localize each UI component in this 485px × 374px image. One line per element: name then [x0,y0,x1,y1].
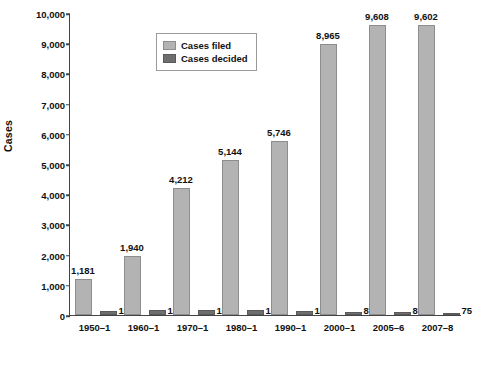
x-tick-label: 1980–1 [226,322,258,333]
bar-cases-filed [222,160,239,315]
bar-value-label-cases-filed: 5,144 [206,146,254,157]
y-tick-label: 5,000 [41,160,65,171]
y-tick-label: 8,000 [41,69,65,80]
bar-value-label-cases-filed: 9,602 [402,11,450,22]
y-tick-label: 4,000 [41,190,65,201]
y-tick-label: 10,000 [36,9,65,20]
bar-cases-filed [75,279,92,315]
bar-cases-decided [198,310,215,315]
x-tick-label: 2000–1 [324,322,356,333]
bar-value-label-cases-filed: 1,940 [108,242,156,253]
bar-cases-decided [100,311,117,315]
bar-cases-filed [320,44,337,315]
legend-item-cases-decided: Cases decided [163,52,248,65]
x-tick-label: 1960–1 [128,322,160,333]
legend-swatch-cases-decided [163,54,176,63]
x-tick-label: 2005–6 [373,322,405,333]
legend-item-cases-filed: Cases filed [163,39,248,52]
bar-value-label-cases-decided: 75 [462,305,485,316]
y-tick-label: 7,000 [41,99,65,110]
bar-cases-decided [443,313,460,315]
legend-label-cases-filed: Cases filed [181,40,231,51]
bar-value-label-cases-filed: 8,965 [304,30,352,41]
x-tick-label: 2007–8 [422,322,454,333]
bar-cases-decided [394,312,411,315]
y-tick-label: 9,000 [41,39,65,50]
legend-label-cases-decided: Cases decided [181,53,248,64]
x-tick-label: 1990–1 [275,322,307,333]
x-tick-label: 1970–1 [177,322,209,333]
bar-cases-filed [124,256,141,315]
legend: Cases filed Cases decided [156,33,257,71]
bar-cases-decided [247,310,264,315]
bar-cases-filed [271,141,288,315]
bar-cases-filed [173,188,190,315]
y-tick-label: 6,000 [41,129,65,140]
y-tick-label: 1,000 [41,280,65,291]
bars-layer: 1,1811251,9401504,2121585,1441525,746146… [70,14,461,315]
legend-swatch-cases-filed [163,41,176,50]
bar-cases-filed [418,25,435,315]
plot-area: 01,0002,0003,0004,0005,0006,0007,0008,00… [69,14,461,316]
y-tick-label: 2,000 [41,250,65,261]
bar-cases-filed [369,25,386,315]
bar-cases-decided [149,310,166,315]
bar-value-label-cases-filed: 4,212 [157,174,205,185]
bar-value-label-cases-filed: 5,746 [255,127,303,138]
y-tick-mark [66,315,70,317]
y-tick-label: 3,000 [41,220,65,231]
bar-chart: Cases 01,0002,0003,0004,0005,0006,0007,0… [0,0,485,374]
y-tick-label: 0 [60,311,65,322]
bar-cases-decided [296,311,313,315]
bar-value-label-cases-filed: 9,608 [353,11,401,22]
y-axis-title: Cases [2,76,14,196]
bar-cases-decided [345,312,362,315]
bar-value-label-cases-filed: 1,181 [59,265,107,276]
x-tick-label: 1950–1 [79,322,111,333]
